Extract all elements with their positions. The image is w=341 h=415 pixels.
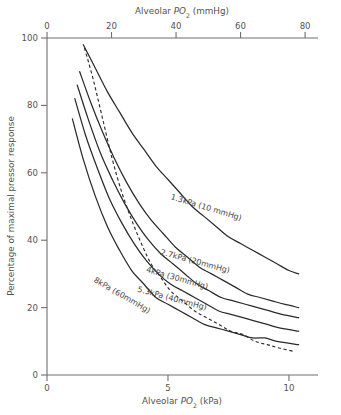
bottom-axis-title: Alveolar PO2 (kPa) xyxy=(142,396,222,409)
y-axis-tick-labels: 020406080100 xyxy=(22,33,38,380)
y-axis-title: Percentage of maximal pressor response xyxy=(6,116,16,296)
axis-title-o: O xyxy=(186,396,193,406)
top-tick-label: 80 xyxy=(300,21,311,31)
y-tick-label: 60 xyxy=(27,168,38,178)
axis-title-suffix: (mmHg) xyxy=(190,6,229,16)
y-tick-label: 80 xyxy=(27,100,38,110)
axis-title-prefix: Alveolar xyxy=(135,6,174,16)
axis-title-o: O xyxy=(179,6,186,16)
top-tick-label: 0 xyxy=(44,21,49,31)
top-axis-tick-labels: 020406080 xyxy=(44,21,310,31)
y-axis-ticks xyxy=(41,38,47,375)
top-tick-label: 40 xyxy=(171,21,182,31)
y-tick-label: 40 xyxy=(27,235,38,245)
y-tick-label: 0 xyxy=(33,370,38,380)
curve-0 xyxy=(83,45,298,274)
bottom-tick-label: 0 xyxy=(44,383,49,393)
axis-title-prefix: Alveolar xyxy=(142,396,181,406)
curve-3 xyxy=(75,99,299,332)
curve-1 xyxy=(80,72,299,308)
axis-title-suffix: (kPa) xyxy=(197,396,222,406)
top-axis-title: Alveolar PO2 (mmHg) xyxy=(135,6,229,19)
figure-container: 020406080 0510 020406080100 1.3kPa (10 m… xyxy=(0,0,341,415)
bottom-axis-ticks xyxy=(47,375,289,381)
top-tick-label: 60 xyxy=(235,21,246,31)
curve-4 xyxy=(72,119,298,345)
bottom-tick-label: 10 xyxy=(283,383,294,393)
top-tick-label: 20 xyxy=(106,21,117,31)
y-tick-label: 100 xyxy=(22,33,38,43)
top-axis-ticks xyxy=(47,32,305,38)
y-tick-label: 20 xyxy=(27,303,38,313)
bottom-tick-label: 5 xyxy=(165,383,170,393)
bottom-axis-tick-labels: 0510 xyxy=(44,383,294,393)
pressor-response-chart: 020406080 0510 020406080100 1.3kPa (10 m… xyxy=(0,0,341,415)
curve-label-4: 8kPa (60mmHg) xyxy=(92,275,152,315)
caption-edge-fragment xyxy=(334,6,341,48)
